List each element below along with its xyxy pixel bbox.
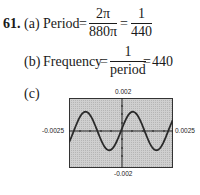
- part-b-equals-1: =: [100, 54, 108, 70]
- problem-number: 61.: [3, 16, 21, 32]
- y-max-label: 0.002: [115, 88, 131, 95]
- part-a-equals-2: =: [120, 16, 128, 32]
- fraction-denominator: 880π: [89, 25, 117, 39]
- part-a-fraction-2: 1 440: [131, 7, 152, 39]
- sine-graph: [69, 98, 173, 168]
- part-b-result: 440: [152, 54, 173, 70]
- part-a-fraction-1: 2π 880π: [89, 7, 117, 39]
- x-max-label: 0.0025: [175, 127, 195, 134]
- part-b-fraction: 1 period: [110, 45, 146, 77]
- y-min-label: -0.002: [114, 170, 132, 177]
- fraction-numerator: 1: [138, 7, 145, 21]
- fraction-denominator: period: [110, 63, 146, 77]
- part-a-lhs: Period: [43, 16, 80, 32]
- part-c-label: (c): [24, 86, 40, 102]
- part-b-equals-2: =: [143, 54, 151, 70]
- part-a-label: (a): [24, 16, 40, 32]
- part-b-lhs: Frequency: [43, 54, 102, 70]
- fraction-denominator: 440: [131, 25, 152, 39]
- x-min-label: -0.0025: [42, 127, 64, 134]
- fraction-numerator: 1: [124, 45, 131, 59]
- part-b-label: (b): [24, 54, 40, 70]
- fraction-numerator: 2π: [96, 7, 110, 21]
- part-a-equals-1: =: [79, 16, 87, 32]
